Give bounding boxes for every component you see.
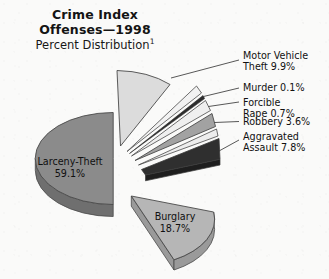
chart-title-line-2: Offenses—1998: [0, 22, 190, 37]
callout-aggravated-assault-line1: Aggravated: [243, 131, 305, 142]
callout-motor-vehicle-theft-line1: Motor Vehicle: [243, 50, 308, 61]
inslice-label-larceny-theft-name: Larceny-Theft: [18, 156, 122, 168]
inslice-label-larceny-theft-value: 59.1%: [18, 168, 122, 180]
callout-forcible-rape-line1: Forcible: [243, 97, 295, 108]
inslice-label-burglary-value: 18.7%: [139, 223, 211, 235]
chart-title-line-1: Crime Index: [0, 7, 190, 22]
callout-aggravated-assault-line2: Assault 7.8%: [243, 142, 305, 153]
callout-robbery-line1: Robbery 3.6%: [243, 116, 310, 127]
callout-murder: Murder 0.1%: [243, 82, 305, 93]
chart-subtitle: Percent Distribution1: [0, 38, 190, 53]
inslice-label-burglary-name: Burglary: [139, 211, 211, 223]
inslice-label-larceny-theft: Larceny-Theft 59.1%: [18, 156, 122, 179]
callout-motor-vehicle-theft-line2: Theft 9.9%: [243, 61, 308, 72]
chart-subtitle-text: Percent Distribution: [36, 38, 150, 52]
callout-motor-vehicle-theft: Motor Vehicle Theft 9.9%: [243, 50, 308, 73]
pie-chart-figure: Crime Index Offenses—1998 Percent Distri…: [0, 0, 329, 279]
chart-title-block: Crime Index Offenses—1998 Percent Distri…: [0, 7, 190, 53]
leader-line-murder: [204, 88, 240, 97]
inslice-label-burglary: Burglary 18.7%: [139, 211, 211, 234]
leader-line-aggravated-assault: [219, 140, 239, 151]
leader-line-robbery: [215, 122, 240, 123]
chart-subtitle-footnote-marker: 1: [150, 37, 155, 46]
leader-line-motor-vehicle-theft: [171, 60, 239, 78]
callout-murder-line1: Murder 0.1%: [243, 82, 305, 93]
callout-robbery: Robbery 3.6%: [243, 116, 310, 127]
leader-line-forcible-rape: [209, 102, 240, 107]
callout-aggravated-assault: Aggravated Assault 7.8%: [243, 131, 305, 154]
